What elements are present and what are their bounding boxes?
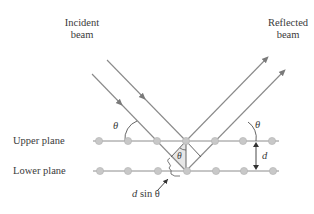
lower-plane-label: Lower plane bbox=[13, 165, 66, 177]
path-difference-sin-theta: sin θ bbox=[137, 188, 160, 199]
upper-plane-label: Upper plane bbox=[13, 135, 65, 147]
d-spacing-arrow bbox=[253, 142, 259, 170]
reflected-beam-lower bbox=[186, 70, 285, 171]
incident-beam-upper bbox=[107, 60, 186, 141]
reflected-label-line2: beam bbox=[262, 29, 314, 41]
reflected-label-line1: Reflected bbox=[262, 17, 314, 29]
incident-label-line2: beam bbox=[57, 29, 107, 41]
reflected-beam-label: Reflected beam bbox=[262, 17, 314, 41]
incident-label-line1: Incident bbox=[57, 17, 107, 29]
path-difference-label: d sin θ bbox=[132, 188, 160, 200]
d-spacing-label: d bbox=[262, 150, 267, 162]
theta-label-left: θ bbox=[113, 120, 118, 132]
theta-label-center: θ bbox=[177, 150, 182, 162]
incident-beam-label: Incident beam bbox=[57, 17, 107, 41]
theta-label-right: θ bbox=[255, 119, 260, 131]
